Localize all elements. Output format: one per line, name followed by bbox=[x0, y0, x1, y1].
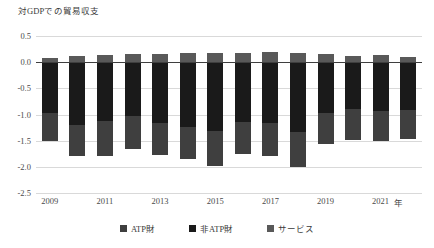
bar-segment-atp[interactable] bbox=[42, 113, 58, 141]
bar-segment-non-atp[interactable] bbox=[125, 62, 141, 116]
bar-segment-atp[interactable] bbox=[262, 123, 278, 156]
bar-segment-non-atp[interactable] bbox=[207, 62, 223, 131]
bar-group[interactable] bbox=[290, 36, 306, 193]
bar-segment-non-atp[interactable] bbox=[318, 62, 334, 113]
bar-segment-atp[interactable] bbox=[180, 127, 196, 159]
bars-layer bbox=[36, 36, 422, 193]
bar-group[interactable] bbox=[373, 36, 389, 193]
x-axis-tick-label: 2021 bbox=[372, 196, 389, 206]
x-axis-unit-label: 年 bbox=[394, 196, 403, 208]
zero-axis-line bbox=[36, 62, 422, 63]
x-axis-tick-label: 2011 bbox=[97, 196, 114, 206]
bar-group[interactable] bbox=[262, 36, 278, 193]
legend-swatch-icon bbox=[267, 225, 274, 232]
bar-segment-atp[interactable] bbox=[290, 132, 306, 167]
bar-segment-non-atp[interactable] bbox=[373, 62, 389, 111]
bar-segment-services[interactable] bbox=[262, 52, 278, 62]
bar-segment-non-atp[interactable] bbox=[345, 62, 361, 109]
bar-segment-services[interactable] bbox=[373, 55, 389, 62]
y-axis-tick-label: 0.0 bbox=[20, 57, 31, 67]
bar-group[interactable] bbox=[69, 36, 85, 193]
bar-group[interactable] bbox=[400, 36, 416, 193]
chart-legend: ATP財非ATP財サービス bbox=[0, 222, 434, 234]
bar-group[interactable] bbox=[97, 36, 113, 193]
bar-segment-services[interactable] bbox=[318, 54, 334, 62]
y-axis-tick-label: -1.5 bbox=[18, 136, 31, 146]
y-axis-tick-label: -1.0 bbox=[18, 110, 31, 120]
bar-group[interactable] bbox=[318, 36, 334, 193]
bar-segment-non-atp[interactable] bbox=[42, 62, 58, 113]
bar-segment-atp[interactable] bbox=[235, 122, 251, 153]
bar-segment-atp[interactable] bbox=[373, 111, 389, 141]
bar-segment-non-atp[interactable] bbox=[235, 62, 251, 122]
bar-segment-atp[interactable] bbox=[207, 131, 223, 166]
legend-label: サービス bbox=[278, 222, 314, 234]
legend-item-services[interactable]: サービス bbox=[267, 222, 314, 234]
plot-area bbox=[36, 36, 422, 193]
legend-item-non-atp[interactable]: 非ATP財 bbox=[189, 222, 233, 234]
legend-item-atp[interactable]: ATP財 bbox=[120, 222, 155, 234]
bar-segment-atp[interactable] bbox=[345, 109, 361, 139]
y-axis-tick-label: 0.5 bbox=[20, 31, 31, 41]
x-axis-tick-label: 2009 bbox=[41, 196, 58, 206]
y-axis-tick-label: -2.5 bbox=[18, 188, 31, 198]
x-axis-tick-label: 2017 bbox=[262, 196, 279, 206]
bar-group[interactable] bbox=[207, 36, 223, 193]
bar-segment-non-atp[interactable] bbox=[152, 62, 168, 123]
bar-segment-services[interactable] bbox=[180, 53, 196, 62]
bar-segment-atp[interactable] bbox=[97, 121, 113, 156]
bar-segment-atp[interactable] bbox=[69, 125, 85, 156]
y-axis-labels: 0.50.0-0.5-1.0-1.5-2.0-2.5 bbox=[0, 0, 36, 248]
x-axis-tick-label: 2019 bbox=[317, 196, 334, 206]
bar-segment-atp[interactable] bbox=[125, 116, 141, 149]
x-axis-labels: 2009201120132015201720192021年 bbox=[36, 196, 422, 212]
bar-segment-non-atp[interactable] bbox=[400, 62, 416, 110]
bar-segment-atp[interactable] bbox=[400, 110, 416, 139]
bar-segment-non-atp[interactable] bbox=[97, 62, 113, 121]
bar-segment-non-atp[interactable] bbox=[180, 62, 196, 127]
bar-segment-services[interactable] bbox=[235, 53, 251, 62]
bar-segment-non-atp[interactable] bbox=[290, 62, 306, 132]
bar-segment-services[interactable] bbox=[125, 54, 141, 62]
bar-group[interactable] bbox=[180, 36, 196, 193]
bar-segment-non-atp[interactable] bbox=[69, 62, 85, 125]
bar-segment-services[interactable] bbox=[97, 55, 113, 62]
legend-swatch-icon bbox=[189, 225, 196, 232]
y-axis-tick-label: -0.5 bbox=[18, 83, 31, 93]
x-axis-tick-label: 2015 bbox=[207, 196, 224, 206]
legend-label: ATP財 bbox=[131, 222, 155, 234]
x-axis-tick-label: 2013 bbox=[152, 196, 169, 206]
bar-group[interactable] bbox=[152, 36, 168, 193]
legend-swatch-icon bbox=[120, 225, 127, 232]
bar-segment-atp[interactable] bbox=[318, 113, 334, 144]
legend-label: 非ATP財 bbox=[200, 222, 233, 234]
bar-segment-services[interactable] bbox=[207, 53, 223, 62]
bar-group[interactable] bbox=[42, 36, 58, 193]
chart-container: 対GDPでの貿易収支 0.50.0-0.5-1.0-1.5-2.0-2.5 20… bbox=[0, 0, 434, 248]
bar-segment-non-atp[interactable] bbox=[262, 62, 278, 123]
gridline bbox=[36, 193, 422, 194]
bar-group[interactable] bbox=[125, 36, 141, 193]
bar-segment-services[interactable] bbox=[152, 54, 168, 62]
bar-segment-atp[interactable] bbox=[152, 123, 168, 155]
y-axis-tick-label: -2.0 bbox=[18, 162, 31, 172]
bar-group[interactable] bbox=[235, 36, 251, 193]
bar-group[interactable] bbox=[345, 36, 361, 193]
bar-segment-services[interactable] bbox=[290, 53, 306, 62]
